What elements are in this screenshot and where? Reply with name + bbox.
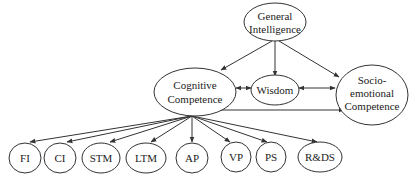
node-general-intelligence-line2: Intelligence	[249, 23, 301, 35]
node-cognitive-competence-line1: Cognitive	[173, 79, 217, 91]
node-ltm: LTM	[126, 143, 166, 173]
node-ap-label: AP	[185, 152, 199, 164]
node-ps: PS	[256, 142, 286, 172]
node-ci-label: CI	[55, 152, 66, 164]
node-general-intelligence-line1: General	[258, 10, 293, 22]
edge-gi-to-cognitive	[221, 41, 272, 70]
node-stm: STM	[82, 143, 120, 173]
node-socioemotional-line3: Competence	[345, 100, 400, 112]
node-ps-label: PS	[265, 151, 277, 163]
node-wisdom: Wisdom	[251, 75, 299, 105]
node-vp-label: VP	[229, 151, 243, 163]
node-socioemotional-line1: Socio-	[358, 74, 387, 86]
node-cognitive-competence: Cognitive Competence	[154, 68, 236, 116]
node-fi: FI	[9, 143, 41, 173]
edge-to-stm	[110, 116, 192, 142]
node-stm-label: STM	[90, 152, 113, 164]
node-cognitive-competence-line2: Competence	[168, 93, 223, 105]
edges-subcomponents	[30, 116, 317, 142]
node-rds: R&DS	[298, 142, 342, 172]
node-ci: CI	[44, 143, 76, 173]
node-rds-label: R&DS	[305, 151, 335, 163]
diagram-canvas: General Intelligence Cognitive Competenc…	[0, 0, 410, 182]
edge-gi-to-socioemotional	[279, 41, 339, 77]
node-ap: AP	[176, 143, 208, 173]
edge-to-ci	[67, 116, 192, 142]
node-socioemotional-competence: Socio- emotional Competence	[336, 65, 408, 125]
node-general-intelligence: General Intelligence	[244, 3, 306, 41]
node-fi-label: FI	[20, 152, 30, 164]
node-wisdom-label: Wisdom	[257, 84, 294, 96]
edges-general-intelligence	[221, 41, 339, 77]
node-vp: VP	[221, 142, 251, 172]
node-ltm-label: LTM	[135, 152, 157, 164]
node-socioemotional-line2: emotional	[350, 87, 394, 99]
edge-to-fi	[30, 116, 192, 142]
